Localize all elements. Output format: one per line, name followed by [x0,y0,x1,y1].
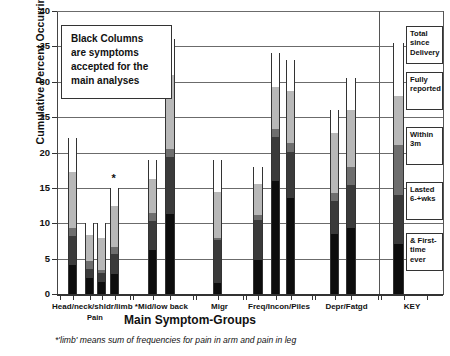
bar-head-seg-total-since-delivery [69,138,77,172]
bar-frequency[interactable] [253,167,263,294]
bar-piles-seg-within-3m [287,143,295,152]
bar-depression[interactable] [330,110,340,294]
footnote-text: *'limb' means sum of frequencies for pai… [55,335,296,345]
x-tick-24 [427,295,428,300]
bar-depression-seg-within-3m [331,193,339,201]
key-lasted-6wks-line-1: 6-+wks [410,194,439,203]
x-tick-19 [335,295,336,300]
bar-mid-back[interactable] [148,160,158,294]
key-bar-seg-within-3m [394,145,403,195]
y-tick-mark-25 [52,117,57,118]
key-total-since-delivery-line-2: Delivery [410,48,439,57]
x-tick-11 [218,295,219,300]
bar-shoulder-seg-fully-reported [98,238,106,270]
y-tick-label-30: 30 [24,76,50,87]
key-lasted-6wks: Lasted6-+wks [406,182,443,220]
bar-neck-seg-within-3m [86,261,94,268]
y-tick-label-15: 15 [24,182,50,193]
gridline-25 [58,117,444,118]
bar-incontinence[interactable] [271,53,281,294]
x-tick-22 [381,295,382,300]
star-marker-bar-limb: * [112,172,116,184]
x-tick-3 [102,295,103,300]
key-within-3m: Within3m [406,127,443,165]
bar-neck-seg-fully-reported [86,235,94,261]
bar-frequency-seg-lasted-6-wks [254,220,262,260]
bar-head[interactable] [68,138,78,294]
bar-migraine-seg-within-3m [214,238,222,239]
y-tick-label-0: 0 [24,288,50,299]
bar-limb-seg-lasted-6-wks [111,254,119,275]
bar-depression-seg-fully-reported [331,133,339,192]
gridline-20 [58,153,444,154]
bar-frequency-seg--first-time-ever [254,260,262,294]
x-tick-23 [404,295,405,300]
key-bar-seg-total-since-delivery [394,43,403,96]
bar-depression-seg--first-time-ever [331,234,339,294]
bar-piles[interactable] [286,60,296,294]
bar-frequency-seg-within-3m [254,215,262,220]
key-total-since-delivery: TotalsinceDelivery [406,26,443,64]
bar-incontinence-seg-within-3m [272,129,280,137]
bar-fatigued[interactable] [346,78,356,294]
bar-migraine-seg-total-since-delivery [214,160,222,193]
bar-migraine-seg-fully-reported [214,192,222,238]
bar-mid-back-seg-total-since-delivery [149,160,157,180]
annotation-box: Black Columnsare symptomsaccepted for th… [61,25,172,99]
annotation-line-2: accepted for the [71,60,162,74]
y-tick-mark-35 [52,46,57,47]
y-tick-label-40: 40 [24,5,50,16]
bar-shoulder[interactable] [97,223,107,294]
annotation-line-0: Black Columns [71,32,162,46]
key-fully-reported-line-1: reported [410,84,439,93]
x-tick-10 [196,295,197,300]
annotation-line-1: are symptoms [71,46,162,60]
bar-mid-back-seg-lasted-6-wks [149,221,157,250]
bar-piles-seg-total-since-delivery [287,60,295,91]
key-bar-seg--first-time-ever [394,244,403,294]
x-tick-2 [90,295,91,300]
bar-low-back-seg-within-3m [166,149,174,157]
bar-neck[interactable] [85,223,95,294]
bar-neck-seg--first-time-ever [86,278,94,294]
y-tick-label-10: 10 [24,217,50,228]
bar-frequency-seg-fully-reported [254,184,262,216]
key-first-time-ever-line-0: & First- [410,236,439,245]
x-tick-16 [291,295,292,300]
bar-fatigued-seg-total-since-delivery [347,78,355,110]
key-bar-seg-fully-reported [394,96,403,146]
key-total-since-delivery-line-0: Total [410,29,439,38]
key-fully-reported-line-0: Fully [410,75,439,84]
x-tick-0 [60,295,61,300]
bar-limb-seg-fully-reported [111,206,119,248]
y-tick-mark-20 [52,153,57,154]
bar-limb[interactable] [110,188,120,294]
x-tick-18 [315,295,316,300]
x-tick-7 [153,295,154,300]
bar-head-seg-lasted-6-wks [69,236,77,265]
bar-fatigued-seg-within-3m [347,167,355,185]
bar-depression-seg-total-since-delivery [331,110,339,133]
key-lasted-6wks-line-0: Lasted [410,185,439,194]
y-tick-label-20: 20 [24,147,50,158]
y-tick-label-5: 5 [24,253,50,264]
group-label-5: KEY [342,302,450,311]
y-tick-mark-15 [52,188,57,189]
bar-shoulder-seg-within-3m [98,270,106,273]
x-tick-4 [115,295,116,300]
bar-incontinence-seg--first-time-ever [272,181,280,293]
bar-migraine-seg-lasted-6-wks [214,240,222,283]
y-tick-mark-5 [52,259,57,260]
bar-shoulder-seg-lasted-6-wks [98,273,106,282]
x-tick-15 [276,295,277,300]
bar-migraine[interactable] [213,160,223,294]
x-tick-1 [73,295,74,300]
bar-limb-seg-within-3m [111,247,119,253]
y-tick-label-35: 35 [24,40,50,51]
key-first-time-ever: & First-time ever [406,233,443,271]
bar-head-seg-fully-reported [69,172,77,228]
bar-shoulder-seg--first-time-ever [98,282,106,294]
bar-piles-seg--first-time-ever [287,198,295,294]
bar-piles-seg-fully-reported [287,91,295,143]
x-tick-21 [378,295,379,300]
